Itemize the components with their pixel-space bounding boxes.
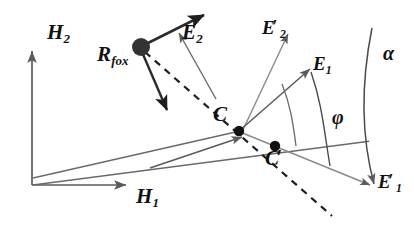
label-e1-prime: E′1 [378,172,402,191]
label-alpha: α [383,43,394,63]
r-fox-down-arrow [142,52,167,110]
alpha-arc [364,28,374,184]
label-e1: E1 [313,54,332,73]
diagram-canvas: H2 H1 Rfox E2 E′2 E1 E′1 C C′ α φ [0,0,414,230]
e1-arrow [239,69,310,131]
label-r-fox: Rfox [97,44,128,65]
label-phi: φ [332,107,344,127]
label-h1: H1 [136,186,159,207]
e1-prime-arrow [240,132,370,185]
label-c: C [213,104,227,125]
r-fox-source-dot [132,38,150,56]
label-c-prime: C′ [265,148,285,169]
c-dot [234,126,244,136]
ray-origin-to-e1-prime [33,140,369,186]
phi-arc [311,72,330,166]
e2-prime-arrow [241,34,288,134]
label-h2: H2 [47,22,70,43]
label-e2: E2 [182,22,203,43]
inner-angle-arc [282,84,296,146]
label-e2-prime: E′2 [262,18,286,37]
